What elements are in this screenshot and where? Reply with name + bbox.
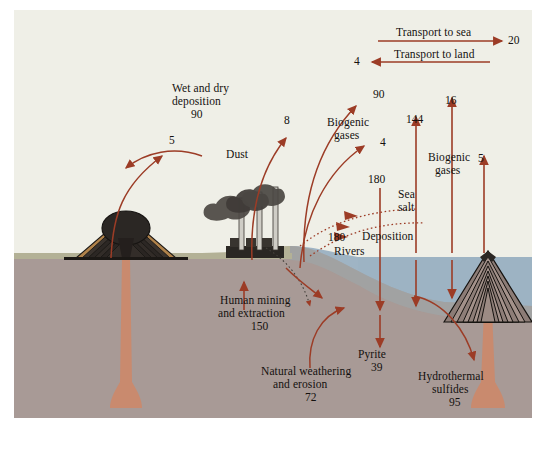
label-biogenic-sea-1: Biogenic [428, 151, 470, 164]
label-natural-weathering-1: Natural weathering [261, 365, 351, 378]
value-biogenic-land-4: 4 [380, 136, 386, 149]
value-hydrothermal-95: 95 [449, 396, 461, 409]
value-natural-weathering-72: 72 [305, 391, 317, 404]
label-dust: Dust [226, 148, 248, 161]
label-rivers: Rivers [334, 245, 365, 258]
label-transport-to-sea: Transport to sea [396, 26, 471, 39]
label-human-mining-1: Human mining [220, 294, 291, 307]
label-human-mining-2: and extraction [218, 307, 285, 320]
label-hydrothermal-2: sulfides [432, 383, 469, 396]
label-sea-salt-2: salt [398, 201, 414, 214]
diagram-scene: Transport to sea 20 Transport to land 4 … [0, 0, 546, 460]
value-biogenic-sea-16: 16 [445, 94, 457, 107]
value-pyrite-39: 39 [371, 361, 383, 374]
label-pyrite: Pyrite [358, 348, 386, 361]
value-transport-to-land: 4 [354, 55, 360, 68]
value-human-mining-150: 150 [251, 320, 268, 333]
label-biogenic-sea-2: gases [435, 164, 460, 177]
label-hydrothermal-1: Hydrothermal [418, 370, 484, 383]
value-biogenic-vent-5: 5 [478, 152, 484, 165]
value-sea-salt-180: 180 [368, 173, 385, 186]
label-biogenic-land-2: gases [334, 129, 359, 142]
value-wet-dry-90: 90 [191, 108, 203, 121]
value-sea-emission-144: 144 [406, 113, 423, 126]
value-sea-deposition-90: 90 [373, 88, 385, 101]
label-wet-dry-2: deposition [172, 95, 221, 108]
label-transport-to-land: Transport to land [394, 48, 475, 61]
value-transport-to-sea: 20 [508, 34, 520, 47]
label-sea-salt-1: Sea [398, 188, 415, 201]
diagram-graphics [14, 10, 532, 418]
label-natural-weathering-2: and erosion [273, 378, 327, 391]
diagram-canvas: Transport to sea 20 Transport to land 4 … [14, 10, 532, 418]
value-deposition-5: 5 [169, 134, 175, 147]
value-rivers-180: 180 [328, 231, 345, 244]
label-wet-dry-1: Wet and dry [172, 82, 229, 95]
label-deposition: Deposition [362, 230, 413, 243]
label-biogenic-land-1: Biogenic [327, 116, 369, 129]
value-dust-8: 8 [284, 114, 290, 127]
